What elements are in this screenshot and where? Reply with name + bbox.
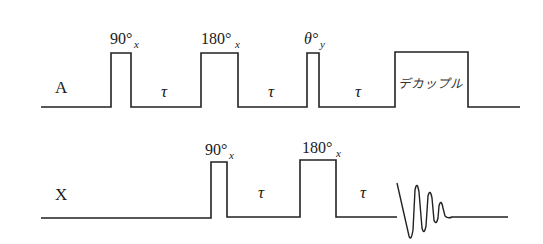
x-delay-tau-1: τ [258,183,265,202]
a-pulse-90x-label: 90° x [110,30,139,50]
svg-text:90°: 90° [110,30,132,47]
a-delay-tau-2: τ [268,82,275,101]
svg-text:x: x [234,38,240,50]
a-delay-tau-3: τ [355,82,362,101]
channel-a: A 90° x τ 180° x τ θ° y τ デカップル [41,30,520,107]
svg-text:θ°: θ° [304,30,319,47]
channel-a-label: A [55,78,68,97]
channel-x: X 90° x τ 180° x τ [41,139,508,238]
a-pulse-theta-y-label: θ° y [304,30,325,50]
svg-text:x: x [335,147,341,159]
svg-text:180°: 180° [201,30,231,47]
svg-text:x: x [133,38,139,50]
a-delay-tau-1: τ [161,82,168,101]
pulse-sequence-diagram: A 90° x τ 180° x τ θ° y τ デカップル X 90° x … [0,0,543,244]
svg-text:y: y [319,38,325,50]
svg-text:x: x [228,149,234,161]
channel-x-waveform [41,160,397,218]
x-pulse-90x-label: 90° x [205,141,234,161]
x-delay-tau-2: τ [360,183,367,202]
a-pulse-180x-label: 180° x [201,30,240,50]
x-pulse-180x-label: 180° x [302,139,341,159]
svg-text:90°: 90° [205,141,227,158]
decouple-label: デカップル [398,76,463,91]
svg-text:180°: 180° [302,139,332,156]
channel-x-label: X [55,185,67,204]
fid-signal [397,183,508,238]
